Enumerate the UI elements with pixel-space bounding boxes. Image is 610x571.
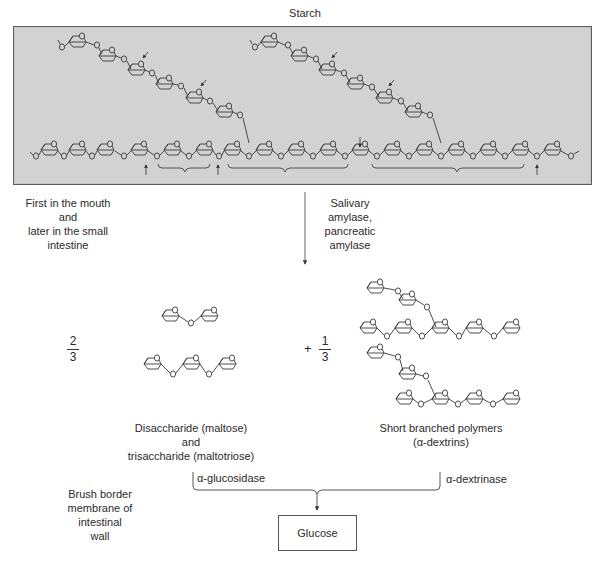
process-location-note: First in the mouth and later in the smal…	[8, 196, 128, 252]
caption-line: and	[110, 435, 272, 449]
glucose-box: Glucose	[278, 515, 357, 551]
enzyme-line: amylase,	[320, 210, 380, 224]
fraction-numerator: 2	[70, 334, 77, 348]
fraction-denominator: 3	[322, 350, 329, 364]
location-line: Brush border	[55, 487, 145, 501]
enzyme-line: pancreatic	[320, 224, 380, 238]
fraction-numerator: 1	[322, 334, 329, 348]
alpha-dextrin-2	[367, 344, 520, 407]
caption-line: Disaccharide (maltose)	[110, 421, 272, 435]
caption-line: trisaccharide (maltotriose)	[110, 449, 272, 463]
alpha-glucosidase-label: α-glucosidase	[197, 471, 265, 485]
amylase-enzymes-label: Salivary amylase, pancreatic amylase	[320, 196, 380, 252]
process-note-line: First in the mouth	[8, 196, 128, 210]
fraction-denominator: 3	[70, 350, 77, 364]
caption-line: Short branched polymers	[360, 421, 522, 435]
location-line: wall	[55, 529, 145, 543]
maltose-molecule	[162, 307, 218, 326]
process-note-line: intestine	[8, 238, 128, 252]
plus-one-third: + 1 3	[302, 335, 342, 365]
cleavage-arrow	[143, 52, 148, 58]
process-note-line: and	[8, 210, 128, 224]
starch-molecule-diagram	[0, 0, 610, 571]
fraction-two-thirds: 2 3	[67, 335, 79, 364]
alpha-dextrin-caption: Short branched polymers (α-dextrins)	[360, 421, 522, 449]
caption-line: (α-dextrins)	[360, 435, 522, 449]
alpha-dextrin-1	[360, 279, 520, 339]
location-line: membrane of	[55, 501, 145, 515]
oligosaccharide-caption: Disaccharide (maltose) and trisaccharide…	[110, 421, 272, 463]
main-chain	[30, 141, 579, 159]
process-note-line: later in the small	[8, 224, 128, 238]
brush-border-note: Brush border membrane of intestinal wall	[55, 487, 145, 543]
glucose-label: Glucose	[279, 526, 356, 540]
main-chain-annotations	[146, 137, 537, 175]
maltotriose-molecule	[144, 355, 236, 377]
location-line: intestinal	[55, 515, 145, 529]
branch-chain-2	[250, 33, 441, 143]
enzyme-line: Salivary	[320, 196, 380, 210]
alpha-dextrinase-label: α-dextrinase	[446, 472, 507, 486]
plus-sign: +	[304, 341, 312, 356]
branch-chain-1	[58, 33, 249, 143]
enzyme-line: amylase	[320, 238, 380, 252]
